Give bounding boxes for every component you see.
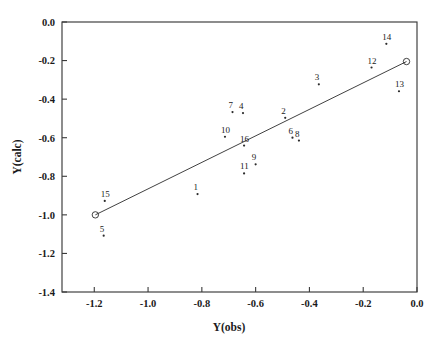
data-point-label: 12 [368, 56, 377, 66]
x-axis-title: Y(obs) [213, 321, 246, 334]
y-tick-label: -0.6 [38, 133, 55, 144]
data-point-marker [298, 140, 300, 142]
data-point-label: 13 [395, 79, 405, 89]
data-point-marker [196, 193, 198, 195]
plot-frame [62, 22, 417, 292]
data-point-marker [318, 83, 320, 85]
y-tick-label: -1.2 [38, 248, 55, 259]
data-point-marker [243, 172, 245, 174]
x-tick-label: -1.2 [86, 298, 103, 309]
data-point-label: 2 [281, 106, 286, 116]
data-point-marker [104, 200, 106, 202]
y-tick-label: -1.0 [38, 210, 55, 221]
data-point-label: 4 [239, 101, 244, 111]
y-axis-title: Y(calc) [11, 139, 24, 174]
plot-canvas: -1.2-1.0-0.8-0.6-0.4-0.20.0 0.0-0.2-0.4-… [0, 0, 440, 341]
data-points: 12345678910111213141516 [100, 32, 405, 237]
x-tick-label: -1.0 [140, 298, 157, 309]
data-point-marker [284, 117, 286, 119]
data-point-marker [231, 111, 233, 113]
data-point-marker [291, 137, 293, 139]
y-tick-label: -0.2 [38, 55, 55, 66]
data-point-marker [224, 136, 226, 138]
x-tick-label: 0.0 [410, 298, 423, 309]
y-tick-label: -0.8 [38, 171, 55, 182]
y-tick-label: -1.4 [38, 287, 55, 298]
data-point-label: 11 [240, 161, 249, 171]
y-axis-ticks: 0.0-0.2-0.4-0.6-0.8-1.0-1.2-1.4 [38, 17, 67, 298]
y-tick-label: 0.0 [42, 17, 55, 28]
data-point-marker [255, 163, 257, 165]
y-tick-label: -0.4 [38, 94, 55, 105]
x-axis-ticks: -1.2-1.0-0.8-0.6-0.4-0.20.0 [86, 287, 424, 309]
x-tick-label: -0.8 [194, 298, 211, 309]
data-point-label: 14 [382, 32, 392, 42]
data-point-marker [103, 235, 105, 237]
data-point-label: 15 [101, 189, 111, 199]
data-point-marker [385, 43, 387, 45]
data-point-label: 3 [315, 72, 320, 82]
data-point-marker [243, 145, 245, 147]
data-point-marker [398, 90, 400, 92]
x-tick-label: -0.4 [301, 298, 318, 309]
x-tick-label: -0.2 [355, 298, 372, 309]
data-point-label: 8 [295, 129, 300, 139]
fit-line [92, 58, 410, 218]
data-point-label: 1 [194, 182, 199, 192]
data-point-label: 5 [100, 224, 105, 234]
data-point-label: 10 [221, 125, 231, 135]
data-point-label: 6 [288, 126, 293, 136]
data-point-label: 9 [252, 152, 257, 162]
scatter-plot-figure: -1.2-1.0-0.8-0.6-0.4-0.20.0 0.0-0.2-0.4-… [0, 0, 440, 341]
data-point-marker [242, 112, 244, 114]
data-point-label: 16 [240, 134, 250, 144]
x-tick-label: -0.6 [247, 298, 264, 309]
data-point-label: 7 [229, 100, 234, 110]
data-point-marker [370, 66, 372, 68]
